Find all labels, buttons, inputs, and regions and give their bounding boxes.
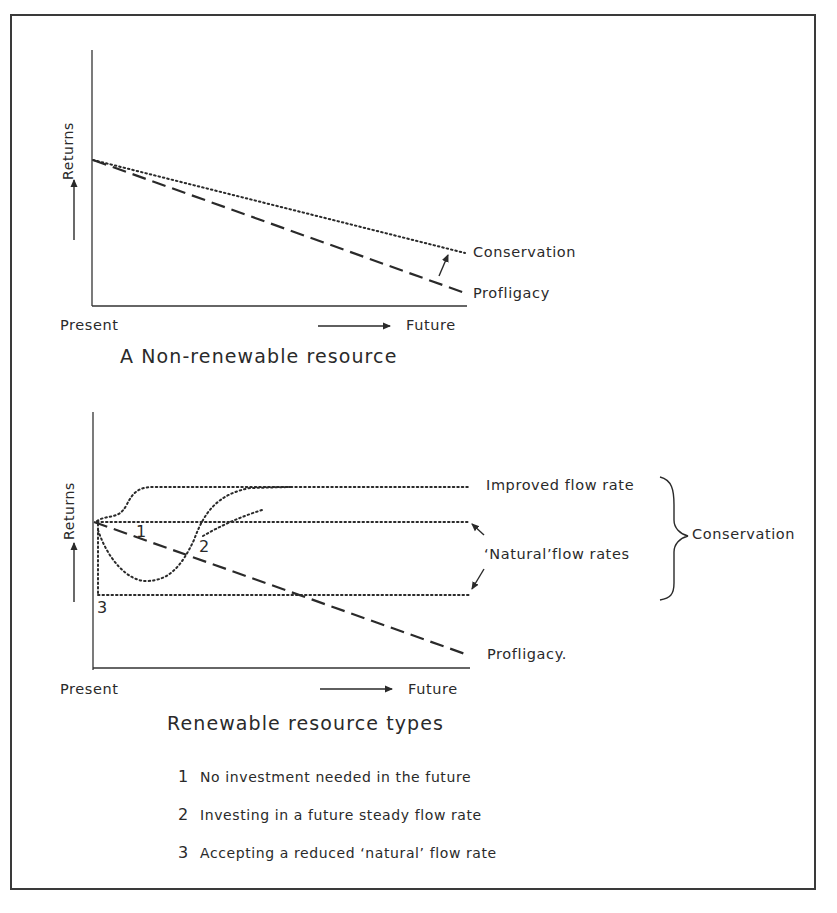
legend-text: Accepting a reduced ‘natural’ flow rate: [200, 845, 497, 861]
top-improvement-arrow-icon: [439, 255, 448, 276]
bottom-profligacy-label: Profligacy.: [487, 646, 567, 662]
legend-item-3: 3Accepting a reduced ‘natural’ flow rate: [178, 843, 497, 862]
top-y-axis-label: Returns: [60, 122, 76, 180]
bottom-profligacy-line: [94, 522, 468, 655]
legend-text: Investing in a future steady flow rate: [200, 807, 482, 823]
top-panel-title: A Non-renewable resource: [120, 345, 397, 367]
natural-arrow-up-icon: [472, 524, 484, 535]
conservation-group-label: Conservation: [692, 526, 795, 542]
bottom-panel-title: Renewable resource types: [167, 712, 444, 734]
top-conservation-line: [93, 160, 465, 253]
natural-flow-label: ‘Natural’flow rates: [484, 546, 630, 562]
bottom-x-axis-start: Present: [60, 681, 119, 697]
marker-3: 3: [97, 598, 108, 617]
bottom-x-axis-end: Future: [408, 681, 458, 697]
improved-flow-label: Improved flow rate: [486, 477, 634, 493]
bottom-y-axis-label: Returns: [61, 482, 77, 540]
top-profligacy-label: Profligacy: [473, 285, 550, 301]
natural-arrow-down-icon: [472, 569, 484, 589]
legend-text: No investment needed in the future: [200, 769, 471, 785]
top-chart: [74, 50, 467, 326]
top-x-axis-end: Future: [406, 317, 456, 333]
improved-flow-line: [97, 487, 470, 521]
legend-number: 3: [178, 843, 200, 862]
legend-item-2: 2Investing in a future steady flow rate: [178, 805, 482, 824]
marker-1: 1: [136, 522, 147, 541]
top-profligacy-line: [93, 160, 465, 293]
legend-number: 2: [178, 805, 200, 824]
marker-2: 2: [199, 537, 210, 556]
conservation-brace: [660, 477, 688, 600]
top-conservation-label: Conservation: [473, 244, 576, 260]
legend-number: 1: [178, 767, 200, 786]
legend-item-1: 1No investment needed in the future: [178, 767, 471, 786]
top-x-axis-start: Present: [60, 317, 119, 333]
